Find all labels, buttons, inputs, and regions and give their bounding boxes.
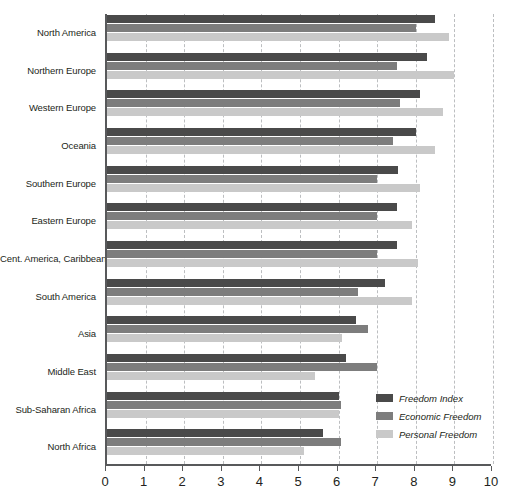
bar [107,410,339,418]
bar [107,15,435,23]
legend-swatch-icon [376,394,393,402]
y-axis-label: North America [0,27,96,38]
bar-group [107,353,491,391]
legend-swatch-icon [376,412,393,420]
legend-swatch-icon [376,430,393,438]
bar [107,62,397,70]
y-axis-label: Northern Europe [0,65,96,76]
bar [107,354,346,362]
x-axis-tick [375,466,376,471]
bar [107,24,416,32]
bar [107,325,368,333]
x-axis-tick-label: 0 [101,474,108,489]
bar-group [107,14,491,52]
y-axis-label: Eastern Europe [0,215,96,226]
legend-item[interactable]: Personal Freedom [376,426,504,442]
x-axis-tick [221,466,222,471]
legend-label: Personal Freedom [399,429,477,440]
y-axis-label: Cent. America, Caribbean [0,253,96,264]
bar [107,184,420,192]
bar [107,221,412,229]
legend-item[interactable]: Economic Freedom [376,408,504,424]
y-axis-label: Asia [0,328,96,339]
legend-label: Freedom Index [399,393,463,404]
bar [107,53,427,61]
y-axis-label: North Africa [0,441,96,452]
y-axis-label: Oceania [0,140,96,151]
y-axis-label: Middle East [0,366,96,377]
bar [107,90,420,98]
bar-group [107,240,491,278]
bar-group [107,202,491,240]
y-axis-label: South America [0,291,96,302]
bar [107,363,377,371]
y-axis-label: Western Europe [0,102,96,113]
x-axis-tick [259,466,260,471]
bar [107,316,356,324]
bar [107,447,304,455]
bar [107,166,398,174]
bar [107,128,416,136]
x-axis-ticks [105,466,491,472]
bar [107,71,454,79]
x-axis-tick-label: 6 [333,474,340,489]
bar-group [107,165,491,203]
x-axis-tick [491,466,492,471]
bar-group [107,127,491,165]
x-axis-tick-label: 4 [256,474,263,489]
y-axis-label: Sub-Saharan Africa [0,404,96,415]
legend-item[interactable]: Freedom Index [376,390,504,406]
bar [107,259,418,267]
x-axis-tick [298,466,299,471]
bar [107,212,377,220]
legend-label: Economic Freedom [399,411,481,422]
x-axis-tick-label: 7 [372,474,379,489]
bar [107,392,339,400]
bar [107,334,342,342]
y-axis-label: Southern Europe [0,178,96,189]
x-axis-tick-label: 8 [410,474,417,489]
x-axis-tick-labels: 012345678910 [105,474,491,494]
x-axis-tick-label: 5 [294,474,301,489]
chart-legend: Freedom IndexEconomic FreedomPersonal Fr… [376,390,504,444]
x-axis-tick-label: 3 [217,474,224,489]
bar [107,33,449,41]
bar-group [107,278,491,316]
freedom-index-bar-chart: North AmericaNorthern EuropeWestern Euro… [0,0,512,499]
bar [107,203,397,211]
bar [107,241,397,249]
bar [107,175,377,183]
bar [107,297,412,305]
x-axis-tick [144,466,145,471]
bar-group [107,315,491,353]
x-axis-tick-label: 2 [179,474,186,489]
bar [107,401,341,409]
bar [107,146,435,154]
bar [107,137,393,145]
x-axis-tick-label: 9 [449,474,456,489]
y-axis-category-labels: North AmericaNorthern EuropeWestern Euro… [0,14,100,466]
x-axis-tick [182,466,183,471]
bar-group [107,89,491,127]
bar [107,279,385,287]
bar [107,108,443,116]
x-axis-tick [452,466,453,471]
bar [107,99,400,107]
bar [107,372,315,380]
bar-group [107,52,491,90]
bar [107,250,377,258]
x-axis-tick [414,466,415,471]
x-axis-tick [105,466,106,471]
x-axis-tick-label: 10 [484,474,498,489]
x-axis-tick-label: 1 [140,474,147,489]
bar [107,438,341,446]
bar [107,288,358,296]
bar [107,429,323,437]
x-axis-tick [337,466,338,471]
